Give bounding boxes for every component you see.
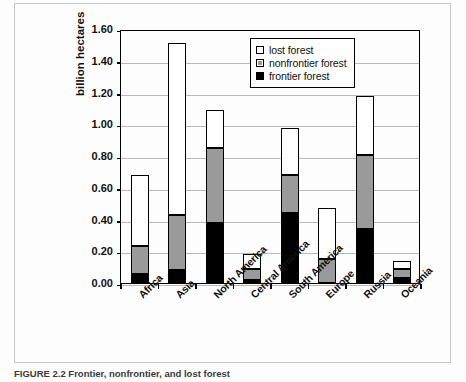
gridline xyxy=(121,190,419,191)
bar-segment-nonfrontier-forest xyxy=(168,215,186,270)
bar-stack xyxy=(168,29,186,283)
bar-segment-frontier-forest xyxy=(206,223,224,283)
y-axis-title: billion hectares xyxy=(74,0,86,96)
y-axis-tick-label: 1.60 xyxy=(92,23,113,35)
legend-item-label: nonfrontier forest xyxy=(269,57,347,69)
bar-stack xyxy=(131,29,149,283)
y-axis-tick-mark xyxy=(117,253,121,255)
bar-segment-nonfrontier-forest xyxy=(206,148,224,223)
y-axis-tick-label: 1.00 xyxy=(92,118,113,130)
stacked-bar-chart: billion hectares 0.000.200.400.600.801.0… xyxy=(0,0,466,382)
gridline xyxy=(121,253,419,254)
bar-segment-nonfrontier-forest xyxy=(393,269,411,279)
legend-item: frontier forest xyxy=(256,70,347,82)
y-axis-tick-label: 0.60 xyxy=(92,182,113,194)
x-axis-tick-mark xyxy=(120,284,122,289)
bar-segment-lost-forest xyxy=(168,43,186,214)
gridline xyxy=(121,158,419,159)
gridline xyxy=(121,95,419,96)
y-axis-tick-mark xyxy=(117,221,121,223)
legend-item-label: lost forest xyxy=(269,44,313,56)
gridline xyxy=(121,222,419,223)
gridline xyxy=(121,126,419,127)
y-axis-tick-mark xyxy=(117,62,121,64)
bar-segment-nonfrontier-forest xyxy=(356,155,374,229)
bar-segment-nonfrontier-forest xyxy=(281,175,299,213)
gray-square-icon xyxy=(256,59,264,67)
white-square-icon xyxy=(256,46,264,54)
chart-legend: lost forestnonfrontier forestfrontier fo… xyxy=(250,38,355,88)
bar-segment-frontier-forest xyxy=(356,229,374,283)
legend-item: lost forest xyxy=(256,44,347,56)
y-axis-tick-mark xyxy=(117,189,121,191)
figure-caption: FIGURE 2.2 Frontier, nonfrontier, and lo… xyxy=(14,368,230,381)
bar-segment-lost-forest xyxy=(206,110,224,148)
bar-segment-lost-forest xyxy=(356,96,374,155)
bar-stack xyxy=(356,29,374,283)
y-axis-tick-label: 0.40 xyxy=(92,214,113,226)
y-axis-tick-mark xyxy=(117,126,121,128)
y-axis-tick-mark xyxy=(117,31,121,33)
bar-segment-nonfrontier-forest xyxy=(131,246,149,274)
bar-stack xyxy=(206,29,224,283)
bar-segment-lost-forest xyxy=(281,128,299,175)
y-axis-tick-label: 0.20 xyxy=(92,245,113,257)
legend-item-label: frontier forest xyxy=(269,70,329,82)
y-axis-tick-label: 0.00 xyxy=(92,277,113,289)
y-axis-tick-label: 1.20 xyxy=(92,87,113,99)
y-axis-tick-label: 1.40 xyxy=(92,55,113,67)
y-axis-tick-label: 0.80 xyxy=(92,150,113,162)
black-square-icon xyxy=(256,72,264,80)
bar-segment-lost-forest xyxy=(393,261,411,269)
bar-stack xyxy=(393,29,411,283)
y-axis-tick-mark xyxy=(117,158,121,160)
y-axis-tick-mark xyxy=(117,94,121,96)
legend-item: nonfrontier forest xyxy=(256,57,347,69)
bar-segment-lost-forest xyxy=(131,175,149,246)
